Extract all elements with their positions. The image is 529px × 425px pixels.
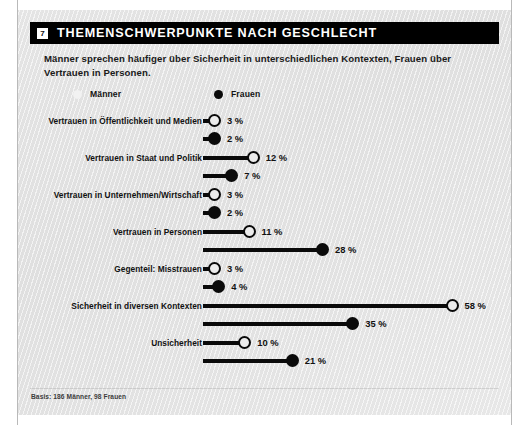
category-label: Vertrauen in Öffentlichkeit und Medien xyxy=(48,116,202,126)
category-label: Gegenteil: Misstrauen xyxy=(114,264,202,274)
value-label: 12 % xyxy=(266,151,287,164)
value-label: 2 % xyxy=(227,206,243,219)
category-label: Unsicherheit xyxy=(151,338,202,348)
footer-divider xyxy=(30,388,499,389)
value-label: 3 % xyxy=(227,262,243,275)
chart-group: Vertrauen in Staat und Politik12 %7 % xyxy=(18,149,511,186)
chart-group: Vertrauen in Öffentlichkeit und Medien3 … xyxy=(18,112,511,149)
legend-label-maenner: Männer xyxy=(90,89,121,99)
value-label: 28 % xyxy=(335,243,356,256)
hollow-circle-icon xyxy=(208,188,221,201)
filled-circle-icon xyxy=(316,243,329,256)
bar-stem xyxy=(203,248,324,252)
lollipop-chart: Vertrauen in Öffentlichkeit und Medien3 … xyxy=(18,112,511,371)
filled-circle-icon xyxy=(208,132,221,145)
basis-note: Basis: 186 Männer, 98 Frauen xyxy=(31,393,126,400)
chart-group: Vertrauen in Unternehmen/Wirtschaft3 %2 … xyxy=(18,186,511,223)
chart-group: Gegenteil: Misstrauen3 %4 % xyxy=(18,260,511,297)
value-label: 4 % xyxy=(231,280,247,293)
legend-item-maenner: Männer xyxy=(73,89,121,99)
hollow-circle-icon xyxy=(208,262,221,275)
filled-circle-icon xyxy=(214,90,223,99)
filled-circle-icon xyxy=(212,280,225,293)
section-number-badge: 7 xyxy=(37,28,48,39)
category-label: Vertrauen in Staat und Politik xyxy=(85,153,202,163)
value-label: 3 % xyxy=(227,188,243,201)
page-rule-right xyxy=(511,0,512,425)
chart-group: Sicherheit in diversen Kontexten58 %35 % xyxy=(18,297,511,334)
bar-stem xyxy=(203,359,294,363)
value-label: 35 % xyxy=(365,317,386,330)
value-label: 2 % xyxy=(227,132,243,145)
chart-group: Vertrauen in Personen11 %28 % xyxy=(18,223,511,260)
filled-circle-icon xyxy=(346,317,359,330)
legend-label-frauen: Frauen xyxy=(231,89,260,99)
title-bar: 7 THEMENSCHWERPUNKTE NACH GESCHLECHT xyxy=(30,22,499,44)
category-label: Vertrauen in Unternehmen/Wirtschaft xyxy=(54,190,202,200)
filled-circle-icon xyxy=(286,354,299,367)
legend-item-frauen: Frauen xyxy=(214,89,260,99)
hollow-circle-icon xyxy=(73,90,82,99)
bar-stem xyxy=(203,322,354,326)
value-label: 7 % xyxy=(244,169,260,182)
hollow-circle-icon xyxy=(208,114,221,127)
category-label: Vertrauen in Personen xyxy=(113,227,202,237)
value-label: 3 % xyxy=(227,114,243,127)
value-label: 11 % xyxy=(262,225,283,238)
value-label: 10 % xyxy=(257,336,278,349)
hollow-circle-icon xyxy=(446,299,459,312)
hollow-circle-icon xyxy=(238,336,251,349)
value-label: 58 % xyxy=(465,299,486,312)
subtitle-text: Männer sprechen häufiger über Sicherheit… xyxy=(44,52,480,80)
hollow-circle-icon xyxy=(243,225,256,238)
filled-circle-icon xyxy=(208,206,221,219)
value-label: 21 % xyxy=(305,354,326,367)
infographic-card: 7 THEMENSCHWERPUNKTE NACH GESCHLECHT Män… xyxy=(18,10,511,415)
page-title: THEMENSCHWERPUNKTE NACH GESCHLECHT xyxy=(57,26,377,40)
bar-stem xyxy=(203,304,454,308)
filled-circle-icon xyxy=(225,169,238,182)
hollow-circle-icon xyxy=(247,151,260,164)
category-label: Sicherheit in diversen Kontexten xyxy=(71,301,202,311)
page-canvas: 7 THEMENSCHWERPUNKTE NACH GESCHLECHT Män… xyxy=(0,0,529,425)
chart-group: Unsicherheit10 %21 % xyxy=(18,334,511,371)
